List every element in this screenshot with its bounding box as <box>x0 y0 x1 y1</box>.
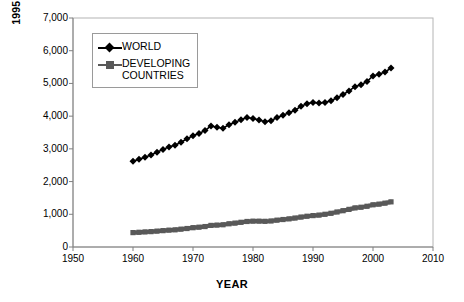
legend-label-developing-countries: DEVELOPING COUNTRIES <box>122 58 190 81</box>
square-marker-icon <box>98 59 122 71</box>
x-tick-label: 1990 <box>291 254 335 264</box>
x-axis-title: YEAR <box>0 278 464 290</box>
x-tick-label: 2000 <box>351 254 395 264</box>
x-tick-label: 1970 <box>171 254 215 264</box>
x-tick-label: 2010 <box>411 254 455 264</box>
x-tick-label: 1980 <box>231 254 275 264</box>
legend-item-world: WORLD <box>98 41 190 54</box>
y-tick-label: 0 <box>24 242 68 252</box>
y-tick-label: 4,000 <box>24 111 68 121</box>
x-tick-labels: 1950196019701980199020002010 <box>0 254 464 268</box>
y-tick-label: 7,000 <box>24 13 68 23</box>
y-tick-label: 3,000 <box>24 144 68 154</box>
legend-item-developing-countries: DEVELOPING COUNTRIES <box>98 58 190 81</box>
diamond-marker-icon <box>98 42 122 54</box>
chart-legend: WORLD DEVELOPING COUNTRIES <box>92 33 198 88</box>
y-tick-label: 1,000 <box>24 209 68 219</box>
chart-figure: 1995 U.S. $ PER PERSON 01,0002,0003,0004… <box>0 0 464 302</box>
y-tick-label: 2,000 <box>24 177 68 187</box>
y-tick-label: 6,000 <box>24 46 68 56</box>
y-tick-label: 5,000 <box>24 78 68 88</box>
x-tick-label: 1960 <box>111 254 155 264</box>
x-tick-label: 1950 <box>51 254 95 264</box>
legend-label-world: WORLD <box>122 41 161 53</box>
